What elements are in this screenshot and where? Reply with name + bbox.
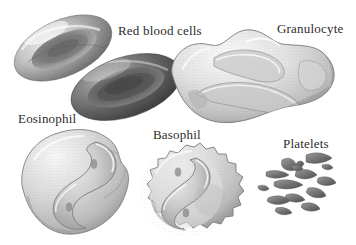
label-platelets: Platelets [283,137,329,150]
label-red-blood-cells: Red blood cells [118,24,202,37]
basophil-art [138,142,244,242]
label-eosinophil: Eosinophil [18,112,76,125]
granulocyte-art [160,22,350,132]
label-basophil: Basophil [153,128,201,141]
platelet-cluster-art [258,153,336,215]
illustration-plate: Red blood cells Granulocyte Eosinophil B… [0,0,356,245]
eosinophil-art [14,124,138,240]
label-granulocyte: Granulocyte [277,22,343,35]
